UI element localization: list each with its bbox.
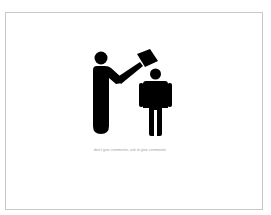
hammer-hitting-person-illustration xyxy=(0,0,271,215)
person-being-hit-icon xyxy=(139,69,172,137)
person-with-hammer-icon xyxy=(93,52,143,135)
slide-caption: don't give comments, ask to give comment… xyxy=(70,148,190,152)
